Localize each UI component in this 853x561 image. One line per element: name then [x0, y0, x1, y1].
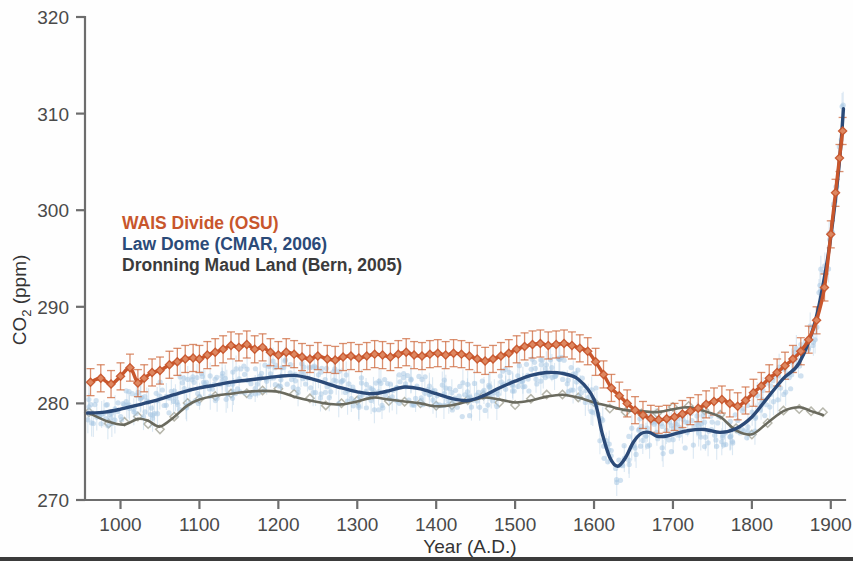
chart-figure: 270280290300310320 100011001200130014001…: [0, 0, 853, 561]
x-axis-tick-label: 1100: [179, 514, 220, 535]
y-axis-tick-labels: 270280290300310320: [37, 7, 69, 511]
y-axis-tick-label: 290: [37, 297, 69, 318]
x-axis-tick-label: 1700: [652, 514, 694, 535]
x-axis-tick-label: 1900: [810, 514, 852, 535]
y-axis-title-subscript: 2: [19, 310, 34, 317]
y-axis-title-unit: (ppm): [9, 255, 30, 310]
y-axis-tick-label: 310: [37, 104, 69, 125]
svg-text:CO2 (ppm): CO2 (ppm): [9, 255, 34, 346]
x-axis-tick-label: 1300: [336, 514, 378, 535]
x-axis-title: Year (A.D.): [423, 536, 516, 557]
x-axis-tick-label: 1200: [257, 514, 299, 535]
x-axis-tick-label: 1000: [99, 514, 141, 535]
y-axis-ticks: [76, 17, 85, 500]
y-axis-tick-label: 320: [37, 7, 69, 28]
y-axis-title: CO2 (ppm): [9, 255, 34, 346]
legend-item-dronning-maud-land: Dronning Maud Land (Bern, 2005): [122, 255, 402, 275]
x-axis-tick-label: 1400: [415, 514, 457, 535]
y-axis-tick-label: 300: [37, 200, 69, 221]
figure-bottom-border: [0, 557, 853, 561]
legend-item-wais-divide: WAIS Divide (OSU): [122, 213, 279, 233]
legend-item-law-dome: Law Dome (CMAR, 2006): [122, 234, 327, 254]
y-axis-tick-label: 270: [37, 490, 69, 511]
x-axis-tick-label: 1600: [573, 514, 615, 535]
chart-legend: WAIS Divide (OSU) Law Dome (CMAR, 2006) …: [122, 213, 402, 275]
co2-ice-core-chart: 270280290300310320 100011001200130014001…: [0, 0, 853, 561]
x-axis-tick-label: 1800: [731, 514, 773, 535]
x-axis-tick-labels: 1000110012001300140015001600170018001900: [99, 514, 852, 535]
x-axis-tick-label: 1500: [494, 514, 536, 535]
y-axis-title-main: CO: [9, 317, 30, 346]
law-dome-scatter-points: [85, 92, 846, 496]
wais-divide-markers: [87, 127, 847, 424]
x-axis-ticks: [121, 500, 831, 509]
y-axis-tick-label: 280: [37, 393, 69, 414]
